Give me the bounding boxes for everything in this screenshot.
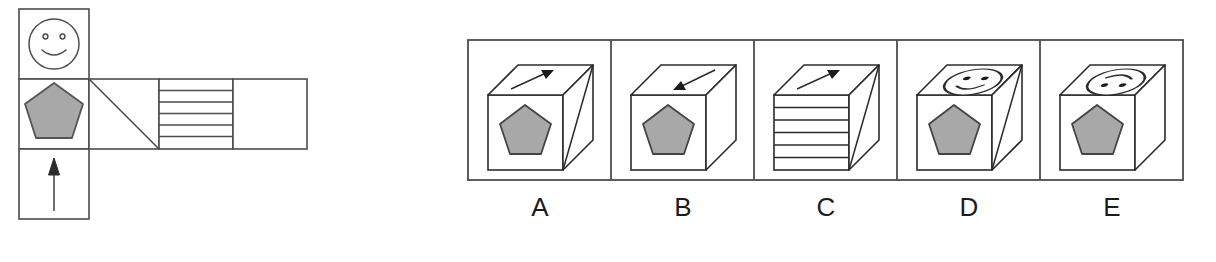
answer-options-box [468,40,1183,180]
cube-net [19,9,307,219]
option-b-cube[interactable] [631,65,736,170]
option-label-c: C [806,194,846,220]
puzzle-figure [0,0,1216,262]
option-a-cube[interactable] [488,65,593,170]
spatial-reasoning-puzzle: A B C D E [0,0,1216,262]
option-e-cube[interactable] [1060,65,1165,170]
net-face-blank [233,79,307,149]
option-label-b: B [663,194,703,220]
smiley-face-icon [29,19,79,69]
option-label-d: D [949,194,989,220]
option-d-cube[interactable] [917,65,1022,170]
option-label-a: A [520,194,560,220]
option-c-cube[interactable] [774,65,879,170]
option-label-e: E [1092,194,1132,220]
